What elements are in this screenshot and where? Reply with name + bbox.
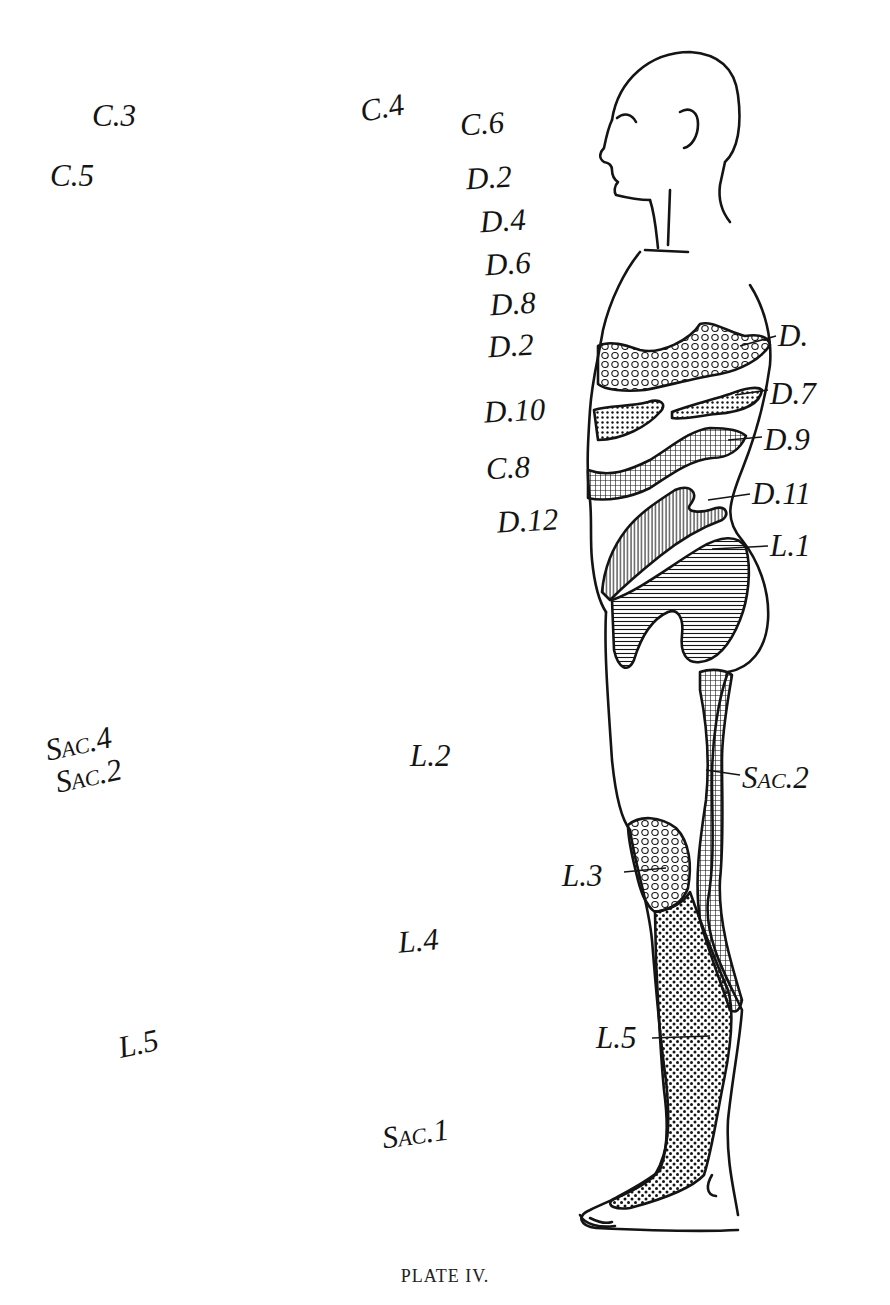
head-outline: [600, 52, 739, 252]
label-d11: D.11: [752, 478, 811, 509]
label-d12: D.12: [496, 503, 559, 537]
label-l5l: L.5: [115, 1024, 161, 1063]
label-d8: D.8: [489, 287, 536, 320]
label-d: D.: [778, 320, 808, 351]
label-c6: C.6: [459, 107, 505, 141]
label-d2b: D.2: [487, 329, 534, 362]
label-d6: D.6: [484, 247, 531, 280]
label-c5: C.5: [50, 160, 94, 191]
label-l5: L.5: [596, 1022, 637, 1053]
label-l1: L.1: [770, 530, 811, 561]
anatomical-figure: [0, 0, 890, 1305]
label-c3: C.3: [92, 100, 136, 131]
label-l4: L.4: [397, 923, 440, 957]
zone-d-upper: [598, 323, 770, 391]
label-l3: L.3: [562, 860, 603, 891]
plate-caption: PLATE IV.: [0, 1266, 890, 1287]
zone-l3: [628, 818, 690, 912]
leader-line-d11: [708, 494, 750, 500]
label-d10: D.10: [483, 393, 546, 427]
label-sac1: Sac.1: [380, 1113, 451, 1153]
label-l2: L.2: [410, 740, 451, 771]
label-d7: D.7: [770, 378, 816, 409]
label-sac2: Sac.2: [742, 762, 809, 793]
ankle-bone: [708, 1175, 716, 1196]
label-d4: D.4: [479, 204, 526, 237]
label-c8: C.8: [485, 451, 530, 484]
label-d2a: D.2: [465, 161, 512, 194]
label-c4: C.4: [358, 88, 407, 126]
label-d9: D.9: [764, 424, 810, 455]
zone-d7: [594, 401, 663, 440]
